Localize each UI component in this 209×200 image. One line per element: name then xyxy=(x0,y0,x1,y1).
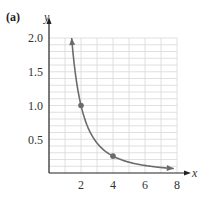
y-tick-1.5: 1.5 xyxy=(28,65,43,80)
x-tick-2: 2 xyxy=(78,178,84,193)
data-point xyxy=(78,103,84,109)
x-axis-label: x xyxy=(192,166,197,181)
data-point xyxy=(110,153,116,159)
y-axis-label: y xyxy=(44,10,49,25)
x-tick-8: 8 xyxy=(174,178,180,193)
x-tick-4: 4 xyxy=(110,178,116,193)
panel-label: (a) xyxy=(6,10,20,25)
y-tick-0.5: 0.5 xyxy=(28,133,43,148)
chart: (a) y x 2.0 1.5 1.0 0.5 2 4 6 8 xyxy=(0,0,209,200)
curve xyxy=(72,38,174,169)
x-axis-arrow-icon xyxy=(184,171,191,176)
y-tick-1.0: 1.0 xyxy=(28,99,43,114)
y-tick-2.0: 2.0 xyxy=(28,31,43,46)
x-tick-6: 6 xyxy=(142,178,148,193)
